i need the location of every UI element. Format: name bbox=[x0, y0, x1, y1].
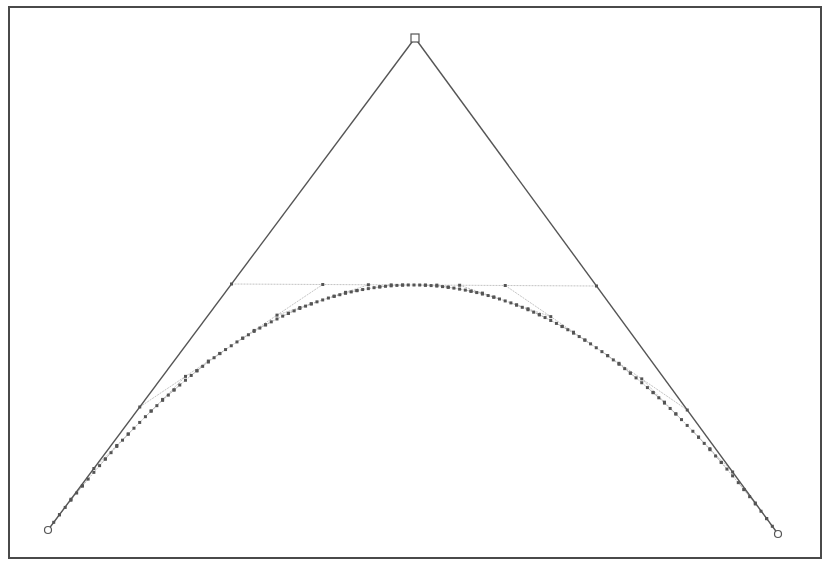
vertex-dot bbox=[184, 375, 187, 378]
vertex-dot bbox=[178, 384, 181, 387]
vertex-dot bbox=[321, 298, 324, 301]
vertex-dot bbox=[92, 471, 95, 474]
vertex-dot bbox=[669, 407, 672, 410]
vertex-dot bbox=[635, 376, 638, 379]
vertex-dot bbox=[413, 284, 416, 287]
vertex-dot bbox=[566, 328, 569, 331]
vertex-dot bbox=[344, 292, 347, 295]
vertex-dot bbox=[132, 427, 135, 430]
vertex-dot bbox=[492, 296, 495, 299]
vertex-dot bbox=[201, 365, 204, 368]
vertex-dot bbox=[367, 283, 370, 286]
vertex-dot bbox=[224, 348, 227, 351]
vertex-dot bbox=[515, 304, 518, 307]
vertex-dot bbox=[281, 315, 284, 318]
vertex-dot bbox=[104, 458, 107, 461]
vertex-dot bbox=[390, 284, 393, 287]
vertex-dot bbox=[526, 308, 529, 311]
vertex-dot bbox=[538, 313, 541, 316]
vertex-dot bbox=[470, 290, 473, 293]
vertex-dot bbox=[686, 424, 689, 427]
vertex-dot bbox=[652, 391, 655, 394]
vertex-dot bbox=[583, 339, 586, 342]
subdivision-vertex-dots bbox=[52, 283, 774, 528]
vertex-dot bbox=[190, 374, 193, 377]
control-point-start-circle-icon[interactable] bbox=[45, 527, 52, 534]
vertex-dot bbox=[549, 315, 552, 318]
vertex-dot bbox=[464, 289, 467, 292]
vertex-dot bbox=[714, 454, 717, 457]
vertex-dot bbox=[121, 439, 124, 442]
construction-lines bbox=[54, 284, 773, 526]
vertex-dot bbox=[703, 442, 706, 445]
vertex-dot bbox=[373, 286, 376, 289]
vertex-dot bbox=[264, 323, 267, 326]
vertex-dot bbox=[657, 396, 660, 399]
control-edge-right bbox=[415, 38, 778, 534]
vertex-dot bbox=[161, 399, 164, 402]
vertex-dot bbox=[287, 312, 290, 315]
vertex-dot bbox=[589, 342, 592, 345]
vertex-dot bbox=[218, 352, 221, 355]
vertex-dot bbox=[725, 468, 728, 471]
vertex-dot bbox=[640, 377, 643, 380]
vertex-dot bbox=[708, 448, 711, 451]
vertex-dot bbox=[304, 305, 307, 308]
vertex-dot bbox=[418, 284, 421, 287]
vertex-dot bbox=[361, 288, 364, 291]
vertex-dot bbox=[532, 311, 535, 314]
vertex-dot bbox=[230, 344, 233, 347]
vertex-dot bbox=[167, 394, 170, 397]
vertex-dot bbox=[298, 307, 301, 310]
vertex-dot bbox=[327, 297, 330, 300]
vertex-dot bbox=[555, 322, 558, 325]
vertex-dot bbox=[315, 300, 318, 303]
vertex-dot bbox=[253, 330, 256, 333]
vertex-dot bbox=[367, 287, 370, 290]
vertex-dot bbox=[235, 340, 238, 343]
vertex-dot bbox=[606, 354, 609, 357]
vertex-dot bbox=[258, 327, 261, 330]
vertex-dot bbox=[475, 291, 478, 294]
vertex-dot bbox=[395, 284, 398, 287]
vertex-dot bbox=[110, 451, 113, 454]
vertex-dot bbox=[544, 316, 547, 319]
vertex-dot bbox=[617, 363, 620, 366]
vertex-dot bbox=[241, 337, 244, 340]
vertex-dot bbox=[247, 333, 250, 336]
vertex-dot bbox=[640, 381, 643, 384]
vertex-dot bbox=[138, 421, 141, 424]
vertex-dot bbox=[378, 285, 381, 288]
vertex-dot bbox=[623, 367, 626, 370]
vertex-dot bbox=[697, 436, 700, 439]
control-point-end-circle-icon[interactable] bbox=[775, 531, 782, 538]
vertex-dot bbox=[127, 433, 130, 436]
vertex-dot bbox=[595, 346, 598, 349]
vertex-dot bbox=[184, 379, 187, 382]
vertex-dot bbox=[572, 332, 575, 335]
vertex-dot bbox=[276, 314, 279, 317]
vertex-dot bbox=[629, 372, 632, 375]
vertex-dot bbox=[384, 285, 387, 288]
vertex-dot bbox=[150, 410, 153, 413]
vertex-dot bbox=[350, 290, 353, 293]
vertex-dot bbox=[680, 418, 683, 421]
vertex-dot bbox=[173, 389, 176, 392]
control-point-apex-square-icon[interactable] bbox=[411, 34, 419, 42]
vertex-dot bbox=[407, 283, 410, 286]
vertex-dot bbox=[549, 319, 552, 322]
vertex-dot bbox=[98, 464, 101, 467]
vertex-dot bbox=[195, 369, 198, 372]
vertex-dot bbox=[401, 284, 404, 287]
vertex-dot bbox=[509, 301, 512, 304]
vertex-dot bbox=[612, 358, 615, 361]
vertex-dot bbox=[498, 297, 501, 300]
vertex-dot bbox=[578, 335, 581, 338]
vertex-dot bbox=[521, 306, 524, 309]
vertex-dot bbox=[481, 293, 484, 296]
vertex-dot bbox=[663, 402, 666, 405]
vertex-dot bbox=[504, 284, 507, 287]
vertex-dot bbox=[270, 320, 273, 323]
vertex-dot bbox=[430, 284, 433, 287]
vertex-dot bbox=[355, 289, 358, 292]
